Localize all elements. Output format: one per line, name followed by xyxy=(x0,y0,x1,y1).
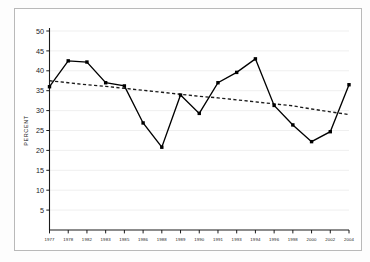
y-tick-label: 40 xyxy=(36,66,44,75)
data-point-marker xyxy=(254,57,257,60)
data-point-marker xyxy=(104,81,107,84)
data-point-marker xyxy=(160,146,163,149)
x-tick-label: 1982 xyxy=(82,237,93,242)
y-tick-label: 20 xyxy=(36,146,44,155)
x-tick-label: 1988 xyxy=(157,237,168,242)
data-point-marker xyxy=(198,112,201,115)
gridlines xyxy=(50,31,350,210)
data-point-marker xyxy=(216,81,219,84)
y-axis-ticks: 5101520253035404550 xyxy=(36,27,50,215)
x-tick-label: 1986 xyxy=(138,237,149,242)
y-tick-label: 50 xyxy=(36,27,44,36)
x-tick-label: 1993 xyxy=(232,237,243,242)
data-point-marker xyxy=(48,85,51,88)
y-tick-label: 5 xyxy=(40,206,44,215)
data-point-marker xyxy=(85,60,88,63)
x-tick-label: 1983 xyxy=(101,237,112,242)
data-point-marker xyxy=(329,130,332,133)
x-tick-label: 1991 xyxy=(213,237,224,242)
x-tick-label: 2000 xyxy=(306,237,317,242)
x-tick-label: 1998 xyxy=(288,237,299,242)
y-tick-label: 25 xyxy=(36,126,44,135)
y-tick-label: 45 xyxy=(36,47,44,56)
x-tick-label: 1985 xyxy=(119,237,130,242)
x-tick-label: 1977 xyxy=(44,237,55,242)
data-line xyxy=(50,59,350,147)
data-point-marker xyxy=(67,59,70,62)
data-point-marker xyxy=(235,71,238,74)
y-tick-label: 15 xyxy=(36,166,44,175)
chart-figure: 5101520253035404550197719781982198319851… xyxy=(0,0,370,262)
x-tick-label: 1990 xyxy=(194,237,205,242)
x-tick-label: 1978 xyxy=(63,237,74,242)
data-point-marker xyxy=(310,140,313,143)
line-chart: 5101520253035404550197719781982198319851… xyxy=(0,0,370,262)
x-tick-label: 1996 xyxy=(269,237,280,242)
x-tick-label: 1994 xyxy=(250,237,261,242)
data-point-marker xyxy=(141,121,144,124)
data-point-marker xyxy=(291,123,294,126)
data-point-marker xyxy=(179,93,182,96)
y-tick-label: 30 xyxy=(36,106,44,115)
data-point-marker xyxy=(272,104,275,107)
y-tick-label: 35 xyxy=(36,86,44,95)
y-axis-title: PERCENT xyxy=(23,115,29,146)
data-point-marker xyxy=(123,84,126,87)
y-tick-label: 10 xyxy=(36,186,44,195)
x-axis-ticks: 1977197819821983198519861988198919901991… xyxy=(44,230,354,242)
data-point-marker xyxy=(347,83,350,86)
x-tick-label: 1989 xyxy=(175,237,186,242)
trend-line xyxy=(50,81,350,115)
x-tick-label: 2004 xyxy=(344,237,355,242)
x-tick-label: 2002 xyxy=(325,237,336,242)
